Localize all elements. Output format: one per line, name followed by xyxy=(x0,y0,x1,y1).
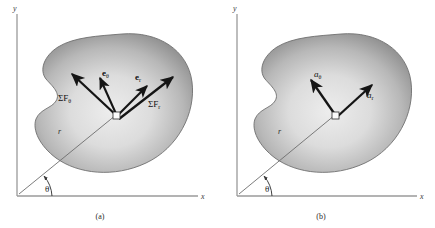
panel-a: y x r θ ΣFθ eθ er xyxy=(0,0,218,228)
figure-container: y x r θ ΣFθ eθ er xyxy=(0,0,435,228)
y-axis-label: y xyxy=(232,4,237,13)
theta-label: θ xyxy=(265,184,269,194)
theta-label: θ xyxy=(45,184,49,194)
y-axis: y xyxy=(232,4,237,196)
rigid-body-blob xyxy=(254,34,412,173)
particle-marker xyxy=(113,112,120,119)
panel-a-drawing: y x r θ ΣFθ eθ er xyxy=(0,0,218,228)
y-axis: y xyxy=(12,4,17,196)
x-axis-label: x xyxy=(200,192,205,201)
panel-b-caption: (b) xyxy=(316,212,326,221)
y-axis-label: y xyxy=(12,4,17,13)
panel-b-drawing: y x r θ aθ ar (b) xyxy=(217,0,435,228)
panel-a-caption: (a) xyxy=(96,212,105,221)
panel-b: y x r θ aθ ar (b) xyxy=(217,0,435,228)
particle-marker xyxy=(332,112,339,119)
rigid-body-blob xyxy=(35,34,193,173)
x-axis-label: x xyxy=(419,192,424,201)
